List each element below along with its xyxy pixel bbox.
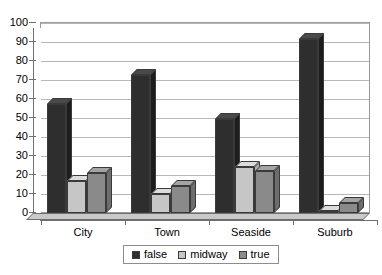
- y-tick-label: 60: [16, 93, 28, 104]
- y-tick-label: 10: [16, 188, 28, 199]
- x-tick-mark: [377, 220, 378, 225]
- bar-face: [151, 194, 170, 213]
- y-tick-mark: [29, 136, 36, 137]
- y-tick-label: 30: [16, 150, 28, 161]
- bar-town-true[interactable]: [171, 186, 190, 213]
- y-tick-mark: [29, 98, 36, 99]
- x-tick-mark: [293, 220, 294, 225]
- x-tick-label-suburb: Suburb: [293, 226, 377, 238]
- y-tick-label: 70: [16, 74, 28, 85]
- bar-face: [215, 119, 234, 213]
- bar-face: [255, 171, 274, 213]
- legend-label: midway: [190, 249, 227, 260]
- y-tick-label: 50: [16, 112, 28, 123]
- y-tick-label: 80: [16, 55, 28, 66]
- y-tick-mark: [29, 41, 36, 42]
- y-axis: 100 90 80 70 60 50 40 30 20 10 0: [0, 0, 40, 275]
- bar-seaside-midway[interactable]: [235, 167, 254, 213]
- bar-suburb-false[interactable]: [299, 39, 318, 213]
- y-tick-mark: [29, 60, 36, 61]
- bar-face: [87, 173, 106, 213]
- bar-city-midway[interactable]: [67, 181, 86, 213]
- legend-item-false[interactable]: false: [132, 249, 167, 260]
- legend-label: true: [251, 249, 270, 260]
- bar-face: [131, 75, 150, 213]
- legend-item-midway[interactable]: midway: [178, 249, 227, 260]
- x-tick-label-city: City: [41, 226, 125, 238]
- legend: false midway true: [123, 245, 279, 264]
- y-tick-mark: [29, 155, 36, 156]
- bar-chart: 100 90 80 70 60 50 40 30 20 10 0 City To…: [0, 0, 382, 275]
- y-tick-mark: [29, 117, 36, 118]
- x-tick-label-seaside: Seaside: [209, 226, 293, 238]
- bar-face: [235, 167, 254, 213]
- bar-group-town: [125, 22, 209, 213]
- bar-face: [67, 181, 86, 213]
- x-tick-mark: [41, 220, 42, 225]
- bar-face: [299, 39, 318, 213]
- bar-suburb-true[interactable]: [339, 203, 358, 213]
- bar-city-false[interactable]: [47, 104, 66, 213]
- bar-face: [47, 104, 66, 213]
- x-tick-label-town: Town: [125, 226, 209, 238]
- y-tick-label: 90: [16, 36, 28, 47]
- y-tick-mark: [29, 174, 36, 175]
- bar-group-city: [41, 22, 125, 213]
- bar-group-suburb: [293, 22, 377, 213]
- bar-seaside-true[interactable]: [255, 171, 274, 213]
- x-tick-mark: [125, 220, 126, 225]
- bar-side: [318, 33, 324, 213]
- y-tick-mark: [29, 22, 36, 23]
- bar-side: [274, 165, 280, 213]
- bar-town-false[interactable]: [131, 75, 150, 213]
- bar-face: [171, 186, 190, 213]
- legend-swatch-icon: [239, 251, 247, 259]
- legend-swatch-icon: [178, 251, 186, 259]
- x-tick-mark: [209, 220, 210, 225]
- bar-town-midway[interactable]: [151, 194, 170, 213]
- bar-seaside-false[interactable]: [215, 119, 234, 213]
- legend-swatch-icon: [132, 251, 140, 259]
- y-tick-label: 20: [16, 169, 28, 180]
- bar-group-seaside: [209, 22, 293, 213]
- y-tick-mark: [29, 193, 36, 194]
- bar-side: [190, 180, 196, 213]
- bar-side: [106, 167, 112, 213]
- y-tick-label: 40: [16, 131, 28, 142]
- y-tick-label: 100: [10, 17, 28, 28]
- chart-floor: [26, 213, 370, 220]
- y-tick-mark: [29, 79, 36, 80]
- bar-city-true[interactable]: [87, 173, 106, 213]
- legend-item-true[interactable]: true: [239, 249, 270, 260]
- bars-layer: [41, 22, 370, 213]
- bar-face: [339, 203, 358, 213]
- legend-label: false: [144, 249, 167, 260]
- y-tick-label: 0: [22, 207, 28, 218]
